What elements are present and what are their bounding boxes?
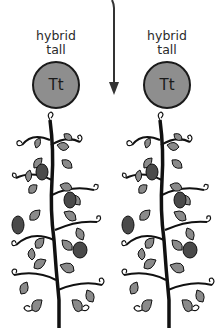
genotype-label: Tt: [48, 76, 63, 94]
pea-plant-left-icon: [2, 100, 112, 330]
parent-left-label: hybrid tall: [21, 29, 91, 57]
down-arrow-icon: [103, 0, 125, 100]
label-line1: hybrid: [21, 29, 91, 43]
genotype-label: Tt: [159, 76, 174, 94]
parent-right-label: hybrid tall: [132, 29, 202, 57]
label-line2: tall: [132, 43, 202, 57]
label-line2: tall: [21, 43, 91, 57]
pea-plant-right-icon: [112, 100, 218, 330]
label-line1: hybrid: [132, 29, 202, 43]
